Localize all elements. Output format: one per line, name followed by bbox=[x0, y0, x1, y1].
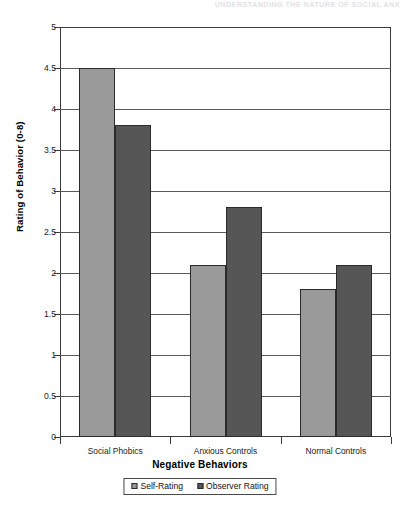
bar-observer-rating bbox=[226, 207, 262, 437]
x-axis-category-label: Normal Controls bbox=[281, 446, 391, 456]
bar-self-rating bbox=[190, 265, 226, 437]
y-axis-tick-label: 2 bbox=[22, 269, 56, 278]
x-axis-tick-mark bbox=[60, 437, 61, 444]
x-axis-category-label: Social Phobics bbox=[60, 446, 170, 456]
bar-observer-rating bbox=[115, 125, 151, 437]
chart-legend: Self-RatingObserver Rating bbox=[123, 478, 276, 495]
y-axis-tick-label: 0 bbox=[22, 433, 56, 442]
x-axis-tick-mark bbox=[170, 437, 171, 444]
y-axis-tick-label: 5 bbox=[22, 23, 56, 32]
y-axis-title: Rating of Behavior (0-8) bbox=[14, 121, 25, 232]
bars-layer bbox=[60, 27, 391, 437]
x-axis-tick-mark bbox=[281, 437, 282, 444]
bar-observer-rating bbox=[336, 265, 372, 437]
y-axis-tick-label: 0.5 bbox=[22, 392, 56, 401]
y-axis-tick-label: 1.5 bbox=[22, 310, 56, 319]
y-axis-tick-label: 1 bbox=[22, 351, 56, 360]
y-axis-tick-label: 4 bbox=[22, 105, 56, 114]
legend-label: Self-Rating bbox=[140, 481, 183, 491]
x-axis-title: Negative Behaviors bbox=[0, 459, 400, 470]
bar-self-rating bbox=[79, 68, 115, 437]
legend-item: Observer Rating bbox=[197, 481, 269, 491]
legend-swatch-icon bbox=[197, 483, 203, 489]
y-axis-tick-label: 2.5 bbox=[22, 228, 56, 237]
x-axis-category-label: Anxious Controls bbox=[170, 446, 280, 456]
x-axis-tick-mark bbox=[391, 437, 392, 444]
legend-label: Observer Rating bbox=[206, 481, 269, 491]
y-axis-tick-label: 3.5 bbox=[22, 146, 56, 155]
bar-chart: 54.543.532.521.510.50 Rating of Behavior… bbox=[0, 0, 400, 516]
legend-item: Self-Rating bbox=[131, 481, 183, 491]
y-axis-tick-label: 4.5 bbox=[22, 64, 56, 73]
bar-self-rating bbox=[300, 289, 336, 437]
y-axis-tick-label: 3 bbox=[22, 187, 56, 196]
legend-swatch-icon bbox=[131, 483, 137, 489]
